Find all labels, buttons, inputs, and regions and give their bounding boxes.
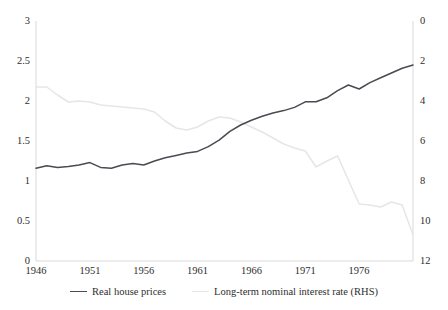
series-line-real-house-prices [36,65,413,168]
chart-container: 00.511.522.53 024681012 1946195119561961… [0,0,448,310]
left-axis-tick: 0.5 [4,216,30,227]
legend-label: Real house prices [92,286,166,297]
series-line-long-term-nominal-interest-rate [36,87,413,235]
chart-plot-area [0,0,448,310]
legend-swatch-icon [70,291,87,292]
right-axis-tick: 12 [420,256,444,267]
left-axis-tick: 2.5 [4,56,30,67]
left-axis-tick: 2 [4,96,30,107]
right-axis-tick: 4 [420,96,444,107]
left-axis-tick: 1.5 [4,136,30,147]
right-axis-tick: 8 [420,176,444,187]
x-axis-tick: 1961 [187,266,208,277]
x-axis-tick: 1966 [241,266,262,277]
legend-item-long-term-nominal-interest-rate[interactable]: Long-term nominal interest rate (RHS) [192,286,378,297]
right-axis-tick: 6 [420,136,444,147]
right-axis-tick: 10 [420,216,444,227]
x-axis-tick: 1976 [349,266,370,277]
right-axis-tick: 2 [420,56,444,67]
x-axis-tick: 1951 [79,266,100,277]
legend-item-real-house-prices[interactable]: Real house prices [70,286,166,297]
x-axis-tick: 1946 [26,266,47,277]
chart-legend: Real house prices Long-term nominal inte… [0,286,448,297]
legend-label: Long-term nominal interest rate (RHS) [214,286,378,297]
x-axis-tick: 1971 [295,266,316,277]
left-axis-tick: 3 [4,16,30,27]
left-axis-tick: 1 [4,176,30,187]
right-axis-tick: 0 [420,16,444,27]
x-axis-tick: 1956 [133,266,154,277]
legend-swatch-icon [192,291,209,292]
